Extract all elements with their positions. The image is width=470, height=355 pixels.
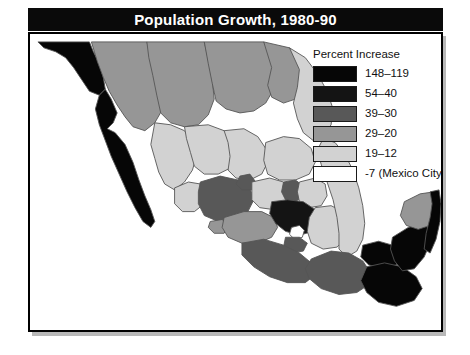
legend-row-29-20: 29–20 [313, 124, 441, 143]
population-growth-map-figure: Population Growth, 1980-90 .rg { stroke:… [0, 0, 470, 355]
legend-label-minus-7: -7 (Mexico City) [365, 168, 443, 180]
legend-row-39-30: 39–30 [313, 104, 441, 123]
legend-swatch-148-119 [313, 66, 357, 82]
legend-row-54-40: 54–40 [313, 84, 441, 103]
legend-row-148-119: 148–119 [313, 64, 441, 83]
map-title-banner: Population Growth, 1980-90 [28, 8, 443, 31]
legend-label-19-12: 19–12 [365, 148, 397, 160]
region-san-luis-potosi [264, 137, 315, 180]
legend-label-39-30: 39–30 [365, 108, 397, 120]
legend-row-minus-7: -7 (Mexico City) [313, 164, 441, 183]
region-michoacan [222, 212, 277, 244]
legend-title: Percent Increase [313, 48, 441, 60]
legend-label-54-40: 54–40 [365, 88, 397, 100]
legend-row-19-12: 19–12 [313, 144, 441, 163]
legend-swatch-39-30 [313, 106, 357, 122]
page-title: Population Growth, 1980-90 [134, 12, 337, 27]
map-legend: Percent Increase 148–119 54–40 39–30 29–… [313, 48, 441, 184]
legend-swatch-minus-7 [313, 166, 357, 182]
legend-swatch-54-40 [313, 86, 357, 102]
map-frame: .rg { stroke: #555555; stroke-width: 0.9… [28, 32, 443, 332]
region-zacatecas [224, 129, 268, 180]
legend-swatch-29-20 [313, 126, 357, 142]
legend-label-148-119: 148–119 [365, 68, 409, 80]
legend-label-29-20: 29–20 [365, 128, 397, 140]
legend-swatch-19-12 [313, 146, 357, 162]
